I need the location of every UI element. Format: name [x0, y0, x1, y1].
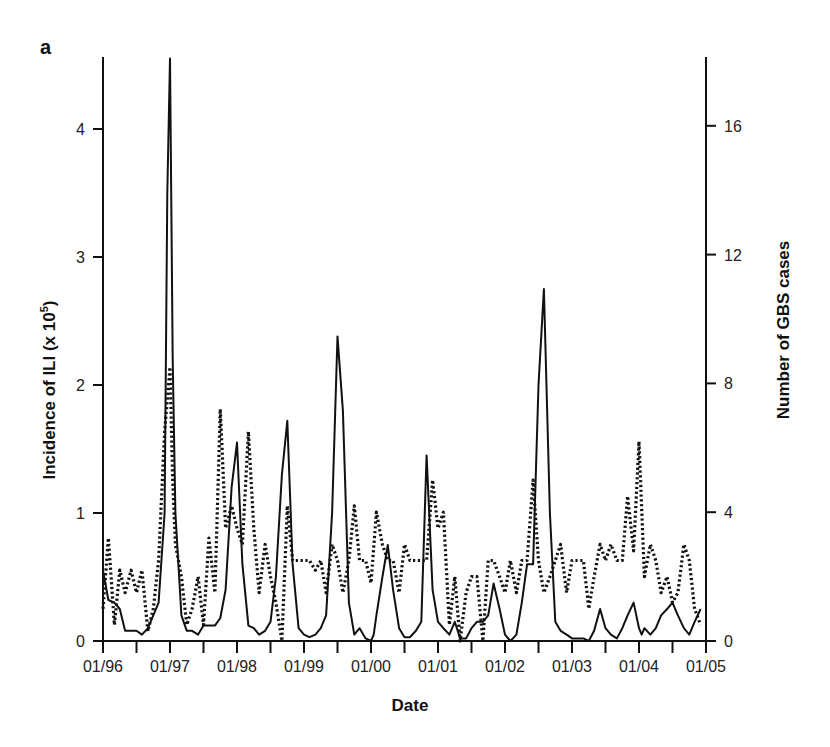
- right-y-tick-label: 0: [724, 633, 733, 650]
- chart-canvas: 01234048121601/9601/9701/9801/9901/0001/…: [0, 0, 830, 747]
- panel-label: a: [40, 36, 51, 59]
- x-tick-label: 01/05: [686, 658, 726, 675]
- right-y-axis-title: Number of GBS cases: [774, 241, 794, 420]
- right-y-tick-label: 8: [724, 375, 733, 392]
- right-y-tick-label: 4: [724, 504, 733, 521]
- x-tick-label: 01/99: [284, 658, 324, 675]
- x-tick-label: 01/97: [150, 658, 190, 675]
- right-y-tick-label: 12: [724, 247, 742, 264]
- right-y-tick-label: 16: [724, 118, 742, 135]
- x-tick-label: 01/00: [351, 658, 391, 675]
- left-y-axis-title: Incidence of ILI (x 105): [38, 300, 60, 479]
- left-y-tick-label: 2: [76, 377, 85, 394]
- left-y-tick-label: 4: [76, 121, 85, 138]
- left-y-tick-label: 0: [76, 633, 85, 650]
- gbs-series-line: [103, 367, 701, 641]
- x-axis-title: Date: [392, 696, 429, 716]
- left-y-tick-label: 3: [76, 249, 85, 266]
- x-tick-label: 01/02: [485, 658, 525, 675]
- x-tick-label: 01/96: [83, 658, 123, 675]
- left-y-tick-label: 1: [76, 505, 85, 522]
- x-tick-label: 01/04: [619, 658, 659, 675]
- axes: 01234048121601/9601/9701/9801/9901/0001/…: [76, 57, 742, 675]
- x-tick-label: 01/98: [217, 658, 257, 675]
- ili-series-line: [103, 59, 701, 641]
- x-tick-label: 01/03: [552, 658, 592, 675]
- x-tick-label: 01/01: [418, 658, 458, 675]
